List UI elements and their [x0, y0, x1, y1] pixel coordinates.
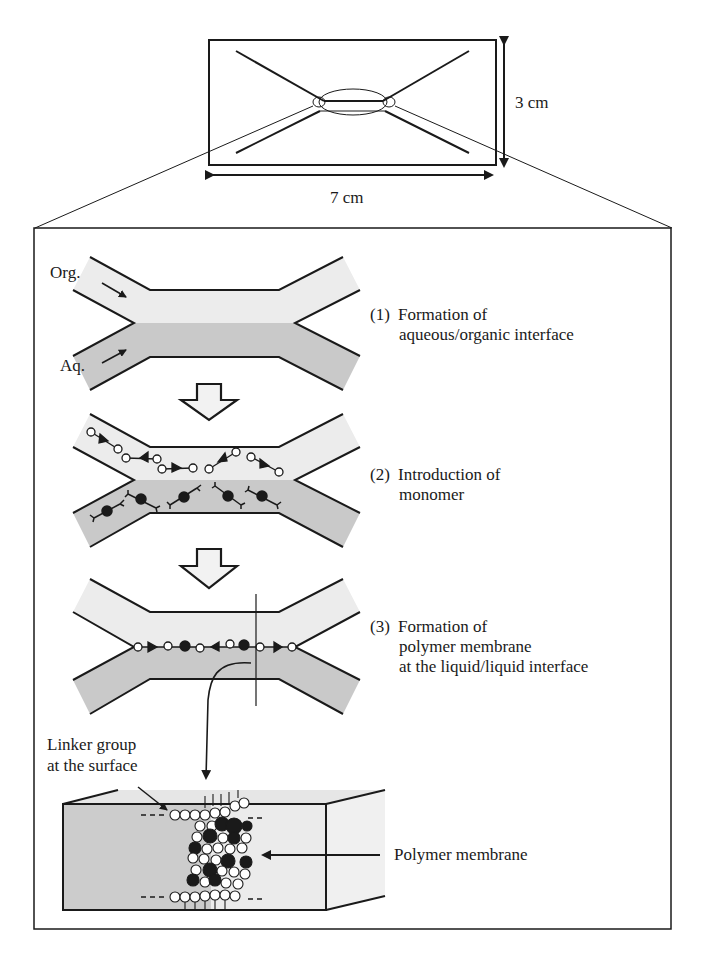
membrane-cross-section: [63, 787, 385, 910]
step-1-line2: aqueous/organic interface: [370, 325, 574, 345]
step-3-line3: at the liquid/liquid interface: [370, 657, 588, 677]
step-1-line1: Formation of: [398, 305, 487, 324]
step-3-caption: (3)Formation of polymer membrane at the …: [370, 617, 588, 677]
step-arrow-2: [181, 549, 237, 588]
organic-phase-label: Org.: [50, 263, 80, 283]
step-2-line1: Introduction of: [398, 465, 500, 484]
step-arrow-1: [181, 384, 237, 420]
step-2-number: (2): [370, 465, 398, 485]
step-3-line1: Formation of: [398, 617, 487, 636]
step-2-line2: monomer: [370, 485, 500, 505]
step-3-number: (3): [370, 617, 398, 637]
panel-2-channel: [73, 414, 360, 547]
step-3-line2: polymer membrane: [370, 637, 588, 657]
diagram-canvas: [0, 0, 703, 960]
step-1-number: (1): [370, 305, 398, 325]
step-1-caption: (1)Formation of aqueous/organic interfac…: [370, 305, 574, 345]
chip-height-label: 3 cm: [515, 93, 549, 113]
polymer-membrane-label: Polymer membrane: [394, 845, 528, 865]
aqueous-phase-label: Aq.: [60, 356, 85, 376]
step-2-caption: (2)Introduction of monomer: [370, 465, 500, 505]
panel-1-channel: [73, 257, 360, 390]
linker-label-line1: Linker group: [47, 735, 136, 755]
chip-width-label: 7 cm: [330, 188, 364, 208]
linker-label-line2: at the surface: [47, 756, 138, 776]
